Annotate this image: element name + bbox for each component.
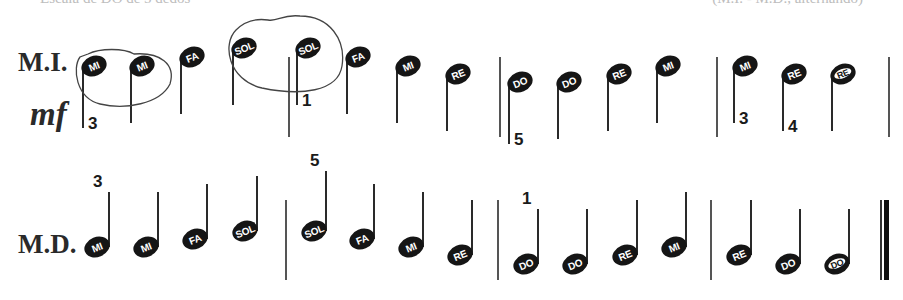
circle-mi-mi-annotation <box>76 50 171 107</box>
pencil-annotations <box>0 0 903 300</box>
circle-sol-sol-annotation <box>229 16 343 92</box>
